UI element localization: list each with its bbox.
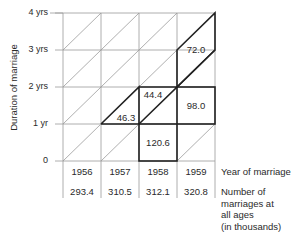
cell-value-44-4: 44.4 (140, 89, 166, 100)
total-1959: 320.8 (177, 186, 215, 197)
y-tick-2yrs: 2 yrs (4, 81, 48, 91)
number-of-marriages-label: Number of marriages at all ages (in thou… (221, 186, 281, 232)
total-1958: 312.1 (139, 186, 177, 197)
number-label-line-1: Number of (221, 186, 281, 198)
total-1957: 310.5 (101, 186, 139, 197)
year-1959: 1959 (177, 166, 215, 177)
number-label-line-3: all ages (221, 209, 281, 221)
year-1958: 1958 (139, 166, 177, 177)
number-label-line-2: marriages at (221, 198, 281, 210)
cell-value-120-6: 120.6 (139, 137, 177, 148)
year-1957: 1957 (101, 166, 139, 177)
number-label-line-4: (in thousands) (221, 221, 281, 233)
y-tick-1yr: 1 yr (4, 118, 48, 128)
year-1956: 1956 (63, 166, 101, 177)
y-tick-3yrs: 3 yrs (4, 44, 48, 54)
cell-value-72-0: 72.0 (177, 44, 215, 55)
cell-value-98-0: 98.0 (177, 100, 215, 111)
total-1956: 293.4 (63, 186, 101, 197)
cell-value-46-3: 46.3 (113, 112, 139, 123)
y-tick-0: 0 (4, 155, 48, 165)
y-tick-4yrs: 4 yrs (4, 7, 48, 17)
year-of-marriage-label: Year of marriage (221, 166, 291, 177)
